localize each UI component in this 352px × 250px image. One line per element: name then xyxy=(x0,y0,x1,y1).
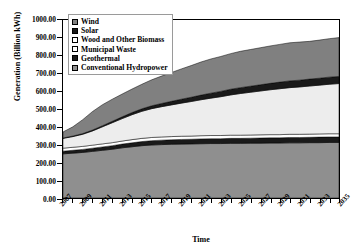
y-axis-tick-label: 300.00 xyxy=(36,141,56,150)
y-axis-tick-label: 800.00 xyxy=(36,51,56,60)
x-axis-title: Time xyxy=(62,235,340,244)
legend-item: Municipal Waste xyxy=(72,45,168,54)
y-axis-tick-label: 600.00 xyxy=(36,87,56,96)
legend-item-label: Geothermal xyxy=(81,54,120,63)
legend-item-label: Wind xyxy=(81,17,99,26)
legend-item-label: Conventional Hydropower xyxy=(81,63,168,72)
legend-item-label: Municipal Waste xyxy=(81,45,136,54)
legend-item-label: Solar xyxy=(81,26,98,35)
y-axis-tick-labels: 1000.00900.00800.00700.00600.00500.00400… xyxy=(8,16,58,198)
y-axis-tick-label: 100.00 xyxy=(36,177,56,186)
legend-item: Wood and Other Biomass xyxy=(72,35,168,44)
legend-swatch-icon xyxy=(72,65,78,71)
area-series-conventional-hydropower xyxy=(63,142,339,198)
legend-swatch-icon xyxy=(72,19,78,25)
y-axis-tick-label: 0.00 xyxy=(43,195,56,204)
legend-item: Solar xyxy=(72,26,168,35)
legend-item: Conventional Hydropower xyxy=(72,63,168,72)
legend-item-label: Wood and Other Biomass xyxy=(81,35,164,44)
legend: WindSolarWood and Other BiomassMunicipal… xyxy=(68,14,173,75)
legend-swatch-icon xyxy=(72,28,78,34)
legend-swatch-icon xyxy=(72,55,78,61)
y-axis-tick-label: 500.00 xyxy=(36,105,56,114)
y-axis-tick-label: 200.00 xyxy=(36,159,56,168)
y-axis-tick-label: 400.00 xyxy=(36,123,56,132)
legend-swatch-icon xyxy=(72,46,78,52)
y-axis-tick-label: 1000.00 xyxy=(32,15,56,24)
y-axis-tick-label: 700.00 xyxy=(36,69,56,78)
legend-item: Geothermal xyxy=(72,54,168,63)
y-axis-tick-label: 900.00 xyxy=(36,33,56,42)
legend-item: Wind xyxy=(72,17,168,26)
legend-swatch-icon xyxy=(72,37,78,43)
x-axis-tick-labels: 2007200920112013201520172019202120232025… xyxy=(62,203,352,233)
